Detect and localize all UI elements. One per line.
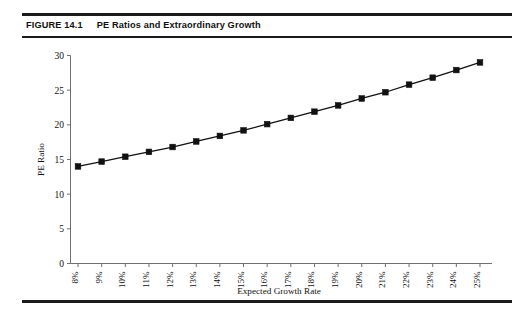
data-point-marker: [383, 89, 389, 95]
x-axis-tick-label: 24%: [448, 271, 458, 288]
y-axis-tick-label: 5: [59, 224, 64, 234]
y-axis-tick-label: 15: [55, 155, 65, 165]
x-axis-tick-label: 13%: [188, 271, 198, 288]
x-axis-tick-label: 8%: [70, 271, 80, 284]
series-line-pe-ratio: [78, 62, 480, 166]
data-point-marker: [477, 60, 483, 66]
x-axis-tick-label: 19%: [330, 271, 340, 288]
y-axis: 051015202530: [55, 51, 71, 269]
data-series-pe-ratio: [75, 60, 483, 170]
data-point-marker: [430, 75, 436, 81]
data-point-marker: [241, 128, 247, 134]
data-point-marker: [312, 109, 318, 115]
y-axis-tick-label: 30: [55, 51, 65, 61]
figure-bottom-rule: [22, 300, 512, 303]
x-axis-tick-label: 23%: [425, 271, 435, 288]
data-point-marker: [193, 139, 199, 145]
data-point-marker: [335, 103, 341, 109]
data-point-marker: [75, 164, 81, 170]
x-axis-tick-label: 22%: [401, 271, 411, 288]
x-axis-tick-label: 10%: [117, 271, 127, 288]
y-axis-tick-label: 10: [55, 190, 65, 200]
data-point-marker: [217, 133, 223, 139]
x-axis: 8%9%10%11%12%13%14%15%16%17%18%19%20%21%…: [70, 264, 492, 289]
data-point-marker: [406, 82, 412, 88]
x-axis-tick-label: 14%: [212, 271, 222, 288]
x-axis-tick-label: 11%: [141, 271, 151, 288]
y-axis-tick-label: 0: [59, 259, 64, 269]
data-point-marker: [122, 154, 128, 160]
data-point-marker: [288, 115, 294, 121]
data-point-marker: [146, 149, 152, 155]
x-axis-tick-label: 12%: [165, 271, 175, 288]
y-axis-title: PE Ratio: [36, 143, 46, 176]
data-point-marker: [359, 96, 365, 102]
x-axis-tick-label: 21%: [377, 271, 387, 288]
chart-plot-area: 051015202530 8%9%10%11%12%13%14%15%16%17…: [0, 0, 531, 315]
x-axis-tick-label: 25%: [472, 271, 482, 288]
figure-container: FIGURE 14.1PE Ratios and Extraordinary G…: [0, 0, 531, 315]
data-point-marker: [170, 144, 176, 150]
data-point-marker: [264, 121, 270, 127]
x-axis-tick-label: 20%: [354, 271, 364, 288]
x-axis-title: Expected Growth Rate: [237, 286, 321, 296]
y-axis-tick-label: 20: [55, 120, 65, 130]
x-axis-tick-label: 9%: [94, 271, 104, 284]
data-point-marker: [454, 67, 460, 73]
data-point-marker: [99, 159, 105, 165]
line-chart-svg: 051015202530 8%9%10%11%12%13%14%15%16%17…: [0, 0, 531, 315]
y-axis-tick-label: 25: [55, 86, 65, 96]
